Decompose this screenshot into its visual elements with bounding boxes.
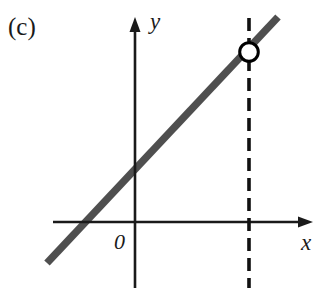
- x-axis-label: x: [301, 231, 311, 254]
- panel-label: (c): [8, 14, 36, 39]
- y-axis-label: y: [150, 10, 160, 33]
- open-circle-marker: [240, 43, 259, 62]
- x-axis-arrowhead: [298, 217, 313, 228]
- graph-canvas: [0, 0, 328, 294]
- origin-label: 0: [114, 231, 125, 253]
- figure-container: (c) y x 0: [0, 0, 328, 294]
- y-axis-arrowhead: [130, 17, 141, 32]
